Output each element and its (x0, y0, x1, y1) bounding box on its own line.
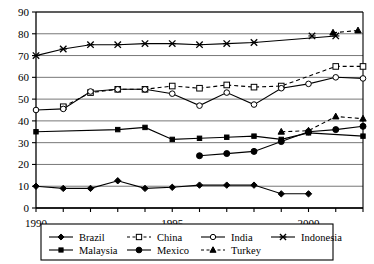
data-point-marker (197, 85, 203, 91)
data-point-marker (210, 234, 215, 239)
data-point-marker (224, 151, 230, 157)
y-axis-tick-label: 60 (18, 71, 30, 83)
data-point-marker (197, 153, 203, 159)
data-point-marker (115, 87, 121, 93)
data-point-marker (306, 81, 312, 87)
y-axis-tick-label: 50 (18, 93, 30, 105)
data-point-marker (136, 234, 141, 239)
data-point-marker (251, 148, 257, 154)
y-axis-tick-label: 90 (18, 6, 30, 18)
line-chart: 0102030405060708090 199019952000 BrazilC… (0, 0, 374, 264)
y-axis-tick-label: 80 (18, 28, 30, 40)
data-point-marker (360, 64, 366, 70)
data-point-marker (169, 91, 175, 97)
data-point-marker (251, 84, 257, 90)
data-point-marker (278, 139, 284, 145)
data-point-marker (224, 90, 230, 96)
data-point-marker (59, 248, 63, 252)
data-point-marker (34, 130, 38, 134)
y-axis-tick-label: 10 (18, 180, 30, 192)
data-point-marker (143, 125, 147, 129)
data-point-marker (170, 137, 174, 141)
y-axis-tick-label: 70 (18, 50, 30, 62)
data-point-marker (224, 82, 230, 88)
data-point-marker (278, 85, 284, 91)
data-point-marker (251, 102, 257, 108)
y-axis-tick-label: 30 (18, 137, 30, 149)
data-point-marker (361, 134, 365, 138)
data-point-marker (142, 87, 148, 93)
legend-label: Indonesia (301, 232, 342, 243)
data-point-marker (136, 247, 142, 253)
data-point-marker (116, 127, 120, 131)
y-axis-tick-label: 40 (18, 115, 30, 127)
data-point-marker (225, 135, 229, 139)
legend-label: India (231, 232, 253, 243)
data-point-marker (333, 127, 339, 133)
data-point-marker (360, 123, 366, 129)
legend-label: Mexico (157, 245, 189, 256)
data-point-marker (333, 64, 339, 70)
legend[interactable]: BrazilChinaIndiaIndonesiaMalaysiaMexicoT… (41, 224, 342, 260)
data-point-marker (333, 75, 339, 81)
data-point-marker (169, 83, 175, 89)
y-axis-tick-label: 20 (18, 158, 30, 170)
data-point-marker (252, 134, 256, 138)
legend-label: Malaysia (79, 245, 118, 256)
legend-label: Turkey (231, 245, 262, 256)
data-point-marker (360, 76, 366, 82)
data-point-marker (197, 103, 203, 109)
data-point-marker (60, 106, 66, 112)
legend-label: China (157, 232, 182, 243)
data-point-marker (33, 107, 39, 113)
legend-label: Brazil (79, 232, 105, 243)
data-point-marker (88, 89, 94, 95)
data-point-marker (197, 136, 201, 140)
y-axis-tick-label: 0 (24, 202, 30, 214)
chart-container: 0102030405060708090 199019952000 BrazilC… (0, 0, 374, 264)
